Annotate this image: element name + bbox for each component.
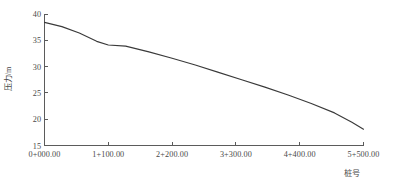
y-tick-label: 30 xyxy=(33,63,41,72)
chart-canvas: 152025303540 0+000.001+100.002+200.003+3… xyxy=(0,0,400,182)
y-axis-title: 压力/m xyxy=(3,66,13,91)
axes-group xyxy=(45,14,364,146)
x-tick-label: 0+000.00 xyxy=(28,150,60,159)
x-tick-label: 1+100.00 xyxy=(92,150,124,159)
y-axis-tick-labels: 152025303540 xyxy=(33,10,41,151)
x-tick-label: 3+300.00 xyxy=(220,150,252,159)
data-series-line xyxy=(45,22,364,129)
x-tick-label: 5+500.00 xyxy=(347,150,379,159)
x-axis-title: 桩号 xyxy=(344,168,360,178)
x-tick-label: 4+400.00 xyxy=(284,150,316,159)
x-axis-tick-labels: 0+000.001+100.002+200.003+300.004+400.00… xyxy=(28,150,379,159)
y-tick-label: 20 xyxy=(33,115,41,124)
y-tick-label: 40 xyxy=(33,10,41,19)
y-tick-label: 35 xyxy=(33,36,41,45)
y-tick-label: 25 xyxy=(33,89,41,98)
pressure-profile-chart: 152025303540 0+000.001+100.002+200.003+3… xyxy=(0,0,400,182)
x-tick-label: 2+200.00 xyxy=(156,150,188,159)
